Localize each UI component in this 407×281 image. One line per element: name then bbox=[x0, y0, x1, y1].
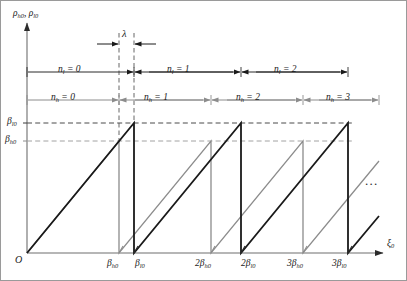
ellipsis-marker: ... bbox=[365, 173, 378, 189]
region-label-nh-1: nh = 1 bbox=[144, 93, 168, 103]
region-label-nh-2: nh = 2 bbox=[236, 93, 260, 103]
series-rho-l0 bbox=[27, 123, 379, 253]
y-tick-marks bbox=[23, 123, 27, 141]
series-rho-h0 bbox=[27, 141, 379, 253]
x-tick-label-3beta-h0: 3βh0 bbox=[287, 259, 303, 269]
x-tick-label-2beta-h0: 2βh0 bbox=[195, 259, 211, 269]
region-label-nl-1: nl = 1 bbox=[167, 65, 189, 75]
x-tick-label-beta-l0: βl0 bbox=[135, 259, 145, 269]
y-axis-label: ρh0, ρl0 bbox=[13, 9, 38, 19]
series-layer bbox=[27, 123, 379, 253]
x-axis-label: ξ0 bbox=[387, 239, 394, 249]
region-label-nh-3: nh = 3 bbox=[326, 93, 350, 103]
x-tick-label-2beta-l0: 2βl0 bbox=[241, 259, 256, 269]
y-tick-label-beta-h0: βh0 bbox=[5, 135, 16, 145]
y-tick-label-beta-l0: βl0 bbox=[7, 117, 17, 127]
origin-label: O bbox=[15, 255, 22, 265]
x-tick-label-3beta-l0: 3βl0 bbox=[332, 259, 347, 269]
region-label-nl-2: nl = 2 bbox=[274, 65, 296, 75]
lambda-label: λ bbox=[122, 29, 127, 40]
region-label-nh-0: nh = 0 bbox=[51, 93, 75, 103]
x-tick-marks bbox=[119, 246, 352, 253]
region-label-nl-0: nl = 0 bbox=[58, 65, 80, 75]
x-tick-label-beta-h0: βh0 bbox=[107, 259, 118, 269]
level-lines bbox=[27, 123, 353, 141]
plot-canvas bbox=[1, 1, 407, 281]
axis-lines bbox=[27, 23, 383, 253]
figure-container: ρh0, ρl0 ξ0 O βl0 βh0 λ nl = 0 nl = 1 nl… bbox=[0, 0, 407, 281]
